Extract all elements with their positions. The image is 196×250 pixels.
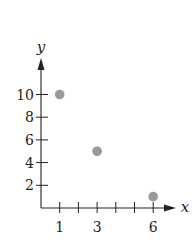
y-tick-label: 10: [16, 87, 34, 103]
scatter-chart: y x 246810 136: [0, 0, 196, 250]
x-ticks: 136: [55, 202, 157, 235]
x-tick-label: 6: [149, 219, 158, 235]
axes: y x: [36, 38, 190, 216]
y-tick-label: 6: [25, 132, 34, 148]
data-point: [92, 146, 102, 156]
x-axis-arrow-icon: [164, 205, 176, 212]
x-axis-label: x: [181, 198, 190, 216]
y-tick-label: 2: [25, 177, 34, 193]
x-tick-label: 1: [55, 219, 64, 235]
y-axis-label: y: [36, 38, 46, 56]
data-points: [55, 90, 158, 202]
y-axis-arrow-icon: [38, 58, 45, 70]
y-tick-label: 8: [25, 109, 34, 125]
y-ticks: 246810: [16, 87, 48, 194]
y-tick-label: 4: [25, 155, 34, 171]
data-point: [148, 192, 158, 202]
x-tick-label: 3: [93, 219, 102, 235]
data-point: [55, 90, 65, 100]
